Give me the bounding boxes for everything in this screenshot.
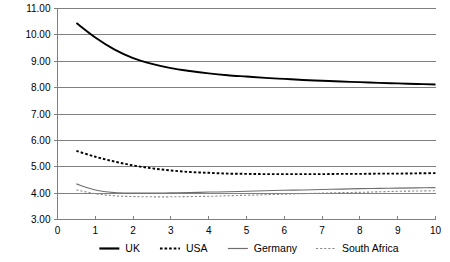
series-line-germany [76,184,435,193]
legend-label: South Africa [342,242,399,254]
legend-label: UK [125,242,140,254]
data-series [76,23,435,197]
y-tick-label: 3.00 [31,214,51,225]
x-tick-label: 5 [244,225,250,236]
x-tick-label: 0 [55,225,61,236]
y-tick-label: 10.00 [25,29,50,40]
x-tick-label: 4 [206,225,212,236]
legend-label: USA [186,242,208,254]
x-tick-label: 3 [168,225,174,236]
y-tick-label: 7.00 [31,109,51,120]
x-tick-label: 2 [130,225,136,236]
y-tick-label: 6.00 [31,135,51,146]
y-tick-label: 9.00 [31,56,51,67]
series-line-usa [76,151,435,174]
chart-canvas: 3.004.005.006.007.008.009.0010.0011.00 0… [0,0,450,262]
legend-item-south-africa: South Africa [316,242,399,254]
legend-item-uk: UK [99,242,140,254]
chart-legend: UKUSAGermanySouth Africa [99,242,398,254]
x-tick-label: 9 [395,225,401,236]
legend-label: Germany [254,242,298,254]
x-tick-label: 6 [282,225,288,236]
y-tick-label: 4.00 [31,188,51,199]
y-axis-tick-labels: 3.004.005.006.007.008.009.0010.0011.00 [25,3,50,225]
legend-item-germany: Germany [228,242,298,254]
legend-item-usa: USA [160,242,208,254]
x-tick-label: 7 [319,225,325,236]
x-tick-label: 8 [357,225,363,236]
x-tick-label: 10 [430,225,442,236]
x-axis-tick-labels: 012345678910 [55,225,442,236]
line-chart: 3.004.005.006.007.008.009.0010.0011.00 0… [0,0,450,262]
y-tick-label: 11.00 [26,3,51,14]
series-line-uk [76,23,435,84]
y-tick-label: 8.00 [31,82,51,93]
x-tick-label: 1 [93,225,99,236]
y-tick-label: 5.00 [31,161,51,172]
